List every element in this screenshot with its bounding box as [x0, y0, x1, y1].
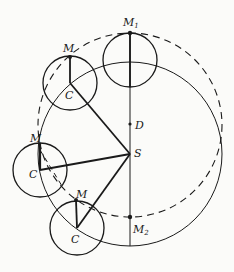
point-M1 [128, 31, 132, 35]
label-M-middle-left: M [29, 132, 42, 145]
label-M1: M1 [122, 16, 139, 30]
label-S: S [134, 147, 142, 160]
point-D [128, 122, 131, 125]
label-C-bottom: C [71, 233, 80, 246]
label-M-upper-left: M [62, 42, 75, 55]
label-M-bottom: M [75, 188, 88, 201]
diagram-canvas: M1 M2 D S M C M C M C [0, 0, 234, 272]
label-D: D [134, 119, 144, 132]
point-M-upper-left [68, 55, 72, 59]
spoke-S-upper-left [70, 83, 130, 154]
spoke-S-middle-left [40, 154, 130, 170]
geometry-diagram: M1 M2 D S M C M C M C [0, 0, 234, 272]
label-M2: M2 [132, 223, 149, 237]
radius-bottom [76, 200, 77, 228]
label-C-middle-left: C [29, 168, 38, 181]
point-M2 [128, 215, 132, 219]
label-C-upper-left: C [65, 89, 74, 102]
